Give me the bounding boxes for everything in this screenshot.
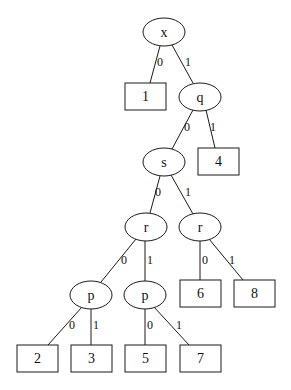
node-label: 3	[88, 351, 95, 366]
edge-line	[101, 239, 136, 282]
edge-line	[48, 307, 82, 345]
edge-label: 1	[210, 120, 216, 134]
edge-line	[209, 239, 243, 280]
decision-node-r: r	[179, 213, 221, 241]
node-label: 8	[251, 286, 258, 301]
decision-tree-diagram: 01010101010101 x1qs4rrpp682357	[0, 0, 291, 390]
node-label: 5	[142, 351, 149, 366]
edge-label: 1	[176, 318, 182, 332]
leaf-node-2: 2	[17, 345, 58, 372]
node-label: p	[88, 288, 95, 303]
node-label: 2	[34, 351, 41, 366]
node-label: r	[198, 220, 203, 235]
leaf-node-3: 3	[71, 345, 112, 372]
node-label: 7	[197, 351, 204, 366]
node-label: 1	[142, 89, 149, 104]
decision-node-p: p	[70, 281, 112, 309]
edge-label: 0	[157, 55, 163, 69]
edge-label: 0	[147, 318, 153, 332]
edge-label: 0	[155, 185, 161, 199]
leaf-node-6: 6	[180, 280, 221, 307]
node-label: p	[142, 288, 149, 303]
leaf-node-4: 4	[198, 148, 239, 175]
edge-q-4: 1	[206, 110, 216, 148]
edge-p1-5: 0	[145, 309, 153, 345]
edge-r0-p1: 1	[145, 241, 153, 281]
edge-label: 1	[147, 253, 153, 267]
decision-node-p: p	[124, 281, 166, 309]
edge-label: 1	[229, 253, 235, 267]
edge-label: 1	[185, 185, 191, 199]
edge-r0-p0: 0	[101, 239, 136, 282]
edge-x-1: 0	[150, 46, 163, 83]
node-label: x	[161, 25, 168, 40]
node-label: s	[161, 155, 166, 170]
edge-line	[154, 307, 189, 345]
node-label: r	[144, 220, 149, 235]
edge-p0-2: 0	[48, 307, 82, 345]
edge-s-r1: 1	[171, 175, 193, 214]
edge-r1-8: 1	[209, 239, 243, 280]
edge-label: 0	[202, 253, 208, 267]
leaf-node-7: 7	[180, 345, 221, 372]
leaf-node-1: 1	[125, 83, 166, 110]
edge-label: 1	[185, 55, 191, 69]
node-label: q	[197, 90, 204, 105]
edge-s-r0: 0	[150, 176, 161, 213]
edge-x-q: 1	[172, 45, 193, 83]
edge-label: 0	[69, 318, 75, 332]
node-label: 6	[197, 286, 204, 301]
decision-node-s: s	[143, 148, 185, 176]
edge-label: 1	[93, 318, 99, 332]
nodes-layer: x1qs4rrpp682357	[17, 18, 275, 372]
edge-label: 0	[121, 253, 127, 267]
edge-q-s: 0	[172, 110, 193, 149]
node-label: 4	[215, 154, 222, 169]
edge-p1-7: 1	[154, 307, 189, 345]
edge-label: 0	[184, 120, 190, 134]
leaf-node-8: 8	[234, 280, 275, 307]
leaf-node-5: 5	[125, 345, 166, 372]
decision-node-r: r	[125, 213, 167, 241]
decision-node-q: q	[179, 83, 221, 111]
edge-p0-3: 1	[91, 309, 99, 345]
edge-r1-6: 0	[200, 241, 208, 280]
decision-node-x: x	[143, 18, 185, 46]
